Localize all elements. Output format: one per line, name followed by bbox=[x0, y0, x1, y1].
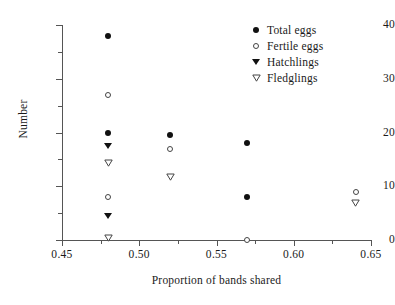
data-point bbox=[104, 213, 112, 219]
data-point bbox=[353, 189, 359, 195]
legend-label: Hatchlings bbox=[267, 56, 319, 68]
y-tick-minor bbox=[58, 52, 62, 53]
x-tick-label: 0.45 bbox=[32, 249, 92, 261]
legend-marker-open-circle-icon bbox=[248, 43, 264, 49]
data-point bbox=[105, 194, 111, 200]
data-point bbox=[244, 194, 250, 200]
x-tick-major bbox=[294, 240, 295, 246]
x-tick-label: 0.60 bbox=[264, 249, 324, 261]
y-tick-label: 20 bbox=[343, 127, 395, 139]
legend-label: Fledglings bbox=[267, 72, 318, 84]
data-point bbox=[167, 146, 173, 152]
legend-item: Fledglings bbox=[248, 70, 323, 86]
legend: Total eggsFertile eggsHatchlingsFledglin… bbox=[248, 22, 323, 86]
data-point bbox=[167, 132, 173, 138]
scatter-plot-figure: 010203040 0.450.500.550.600.65 Proportio… bbox=[0, 0, 395, 305]
legend-item: Hatchlings bbox=[248, 54, 323, 70]
y-tick-major bbox=[56, 186, 62, 187]
legend-label: Total eggs bbox=[267, 24, 316, 36]
x-tick-minor bbox=[101, 240, 102, 244]
x-tick-major bbox=[217, 240, 218, 246]
x-tick-minor bbox=[178, 240, 179, 244]
y-tick-label: 40 bbox=[343, 19, 395, 31]
legend-marker-open-triangle-down-icon bbox=[248, 74, 264, 82]
y-tick-minor bbox=[58, 159, 62, 160]
y-tick-label: 30 bbox=[343, 73, 395, 85]
legend-marker-filled-triangle-down-icon bbox=[248, 59, 264, 65]
data-point bbox=[244, 237, 250, 243]
x-tick-minor bbox=[332, 240, 333, 244]
y-tick-major bbox=[56, 133, 62, 134]
y-tick-minor bbox=[58, 106, 62, 107]
y-axis-line bbox=[62, 25, 63, 240]
x-tick-label: 0.55 bbox=[187, 249, 247, 261]
y-tick-label: 0 bbox=[343, 234, 395, 246]
data-point bbox=[244, 140, 250, 146]
data-point bbox=[104, 143, 112, 149]
y-tick-major bbox=[56, 25, 62, 26]
legend-marker-filled-circle-icon bbox=[248, 27, 264, 33]
data-point bbox=[105, 130, 111, 136]
legend-label: Fertile eggs bbox=[267, 40, 323, 52]
x-tick-label: 0.50 bbox=[109, 249, 169, 261]
y-tick-label: 10 bbox=[343, 180, 395, 192]
legend-item: Total eggs bbox=[248, 22, 323, 38]
x-tick-minor bbox=[255, 240, 256, 244]
legend-item: Fertile eggs bbox=[248, 38, 323, 54]
x-tick-major bbox=[139, 240, 140, 246]
data-point bbox=[105, 33, 111, 39]
data-point bbox=[105, 92, 111, 98]
x-tick-major bbox=[62, 240, 63, 246]
y-tick-major bbox=[56, 79, 62, 80]
x-tick-major bbox=[371, 240, 372, 246]
y-axis-title: Number bbox=[17, 74, 29, 164]
y-tick-minor bbox=[58, 213, 62, 214]
x-tick-label: 0.65 bbox=[341, 249, 395, 261]
x-axis-title: Proportion of bands shared bbox=[62, 274, 371, 286]
